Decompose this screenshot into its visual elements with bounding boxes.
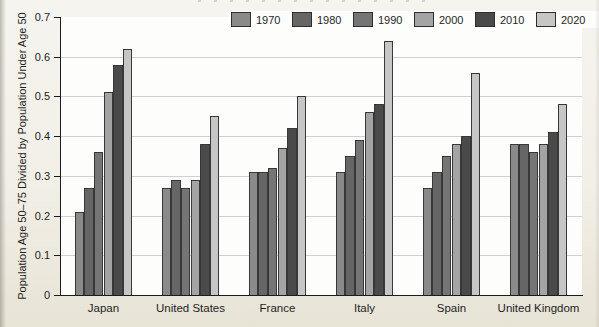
bar-japan-2020 xyxy=(123,49,133,295)
bar-france-2020 xyxy=(297,96,307,295)
legend-label-2000: 2000 xyxy=(439,14,463,26)
legend-label-2010: 2010 xyxy=(500,14,524,26)
bar-italy-2010 xyxy=(374,104,384,295)
bar-italy-2000 xyxy=(365,112,375,295)
y-axis-line xyxy=(60,17,61,296)
legend-label-1970: 1970 xyxy=(256,14,280,26)
bar-japan-2010 xyxy=(113,65,123,295)
bar-france-1970 xyxy=(249,172,259,295)
gridline-0.5 xyxy=(60,96,582,97)
legend: 197019801990200020102020 xyxy=(229,11,599,28)
x-axis-line xyxy=(60,295,583,296)
legend-entry-2000: 2000 xyxy=(414,12,475,27)
y-tick-0.2 xyxy=(54,216,60,217)
legend-entry-1990: 1990 xyxy=(353,12,414,27)
bar-united-states-2010 xyxy=(200,144,210,295)
bar-united-states-1990 xyxy=(181,188,191,295)
bar-france-1990 xyxy=(268,168,278,295)
legend-label-1980: 1980 xyxy=(317,14,341,26)
y-axis-title: Population Age 50–75 Divided by Populati… xyxy=(16,6,28,306)
bar-spain-2020 xyxy=(471,73,481,295)
legend-swatch-2020 xyxy=(536,12,556,27)
plot-area xyxy=(60,17,582,295)
bar-group-spain xyxy=(423,17,481,295)
bar-spain-2000 xyxy=(452,144,462,295)
bar-united-kingdom-2010 xyxy=(548,132,558,295)
gridline-0.3 xyxy=(60,176,582,177)
y-tick-0.1 xyxy=(54,255,60,256)
legend-label-1990: 1990 xyxy=(378,14,402,26)
legend-swatch-1990 xyxy=(353,12,373,27)
gridline-0.1 xyxy=(60,255,582,256)
y-tick-0.7 xyxy=(54,17,60,18)
bar-italy-1990 xyxy=(355,140,365,295)
page-edge-shadow-right xyxy=(595,0,599,327)
bar-spain-1970 xyxy=(423,188,433,295)
bar-japan-1990 xyxy=(94,152,104,295)
page-edge-shadow-left xyxy=(0,0,6,327)
aging-ratio-bar-chart-figure: 0.70.60.50.40.30.20.10 Population Age 50… xyxy=(0,0,599,327)
bar-japan-2000 xyxy=(104,92,114,295)
x-label-united-kingdom: United Kingdom xyxy=(479,302,599,314)
legend-swatch-1980 xyxy=(292,12,312,27)
bar-united-kingdom-2020 xyxy=(558,104,568,295)
legend-swatch-2000 xyxy=(414,12,434,27)
legend-entry-1970: 1970 xyxy=(231,12,292,27)
legend-swatch-1970 xyxy=(231,12,251,27)
bar-spain-2010 xyxy=(461,136,471,295)
bar-group-japan xyxy=(75,17,133,295)
bar-france-2010 xyxy=(287,128,297,295)
y-tick-0.3 xyxy=(54,176,60,177)
bar-united-states-1980 xyxy=(171,180,181,295)
page-crop-artifact xyxy=(198,0,433,2)
bar-spain-1980 xyxy=(432,172,442,295)
bar-united-kingdom-1970 xyxy=(510,144,520,295)
gridline-0.4 xyxy=(60,136,582,137)
gridline-0.6 xyxy=(60,57,582,58)
bar-france-1980 xyxy=(258,172,268,295)
y-tick-0.5 xyxy=(54,96,60,97)
bar-united-states-2020 xyxy=(210,116,220,295)
bar-japan-1980 xyxy=(84,188,94,295)
bar-italy-1970 xyxy=(336,172,346,295)
bar-spain-1990 xyxy=(442,156,452,295)
legend-entry-1980: 1980 xyxy=(292,12,353,27)
bar-united-states-1970 xyxy=(162,188,172,295)
bar-united-kingdom-1990 xyxy=(529,152,539,295)
bar-italy-2020 xyxy=(384,41,394,295)
bar-group-united-states xyxy=(162,17,220,295)
legend-entry-2020: 2020 xyxy=(536,12,597,27)
gridline-0.2 xyxy=(60,216,582,217)
legend-swatch-2010 xyxy=(475,12,495,27)
bar-group-united-kingdom xyxy=(510,17,568,295)
bar-group-france xyxy=(249,17,307,295)
legend-label-2020: 2020 xyxy=(561,14,585,26)
y-tick-0.4 xyxy=(54,136,60,137)
bar-united-states-2000 xyxy=(191,180,201,295)
bar-united-kingdom-2000 xyxy=(539,144,549,295)
bar-italy-1980 xyxy=(345,156,355,295)
legend-entry-2010: 2010 xyxy=(475,12,536,27)
bar-france-2000 xyxy=(278,148,288,295)
bar-united-kingdom-1980 xyxy=(519,144,529,295)
y-tick-0.6 xyxy=(54,57,60,58)
bar-japan-1970 xyxy=(75,212,85,295)
bar-group-italy xyxy=(336,17,394,295)
y-tick-0 xyxy=(54,295,60,296)
